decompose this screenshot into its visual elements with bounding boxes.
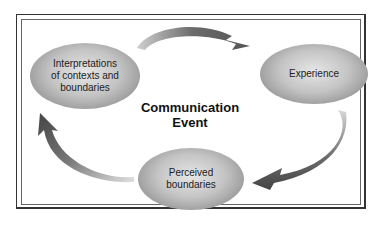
curved-arrow-icon bbox=[38, 113, 134, 182]
node-label-line: Experience bbox=[289, 68, 339, 80]
center-title-line: Event bbox=[130, 115, 250, 130]
node-perceived: Perceived boundaries bbox=[138, 148, 244, 210]
node-experience: Experience bbox=[260, 44, 368, 104]
node-label-line: boundaries bbox=[166, 179, 215, 191]
node-label-line: boundaries bbox=[51, 82, 119, 94]
node-interpretations: Interpretations of contexts and boundari… bbox=[30, 43, 140, 109]
center-title-line: Communication bbox=[130, 100, 250, 115]
curved-arrow-icon bbox=[252, 110, 346, 190]
curved-arrow-icon bbox=[137, 27, 250, 50]
node-label-line: of contexts and bbox=[51, 70, 119, 82]
node-label-line: Perceived bbox=[166, 167, 215, 179]
center-title: Communication Event bbox=[130, 100, 250, 130]
node-label-line: Interpretations bbox=[51, 58, 119, 70]
